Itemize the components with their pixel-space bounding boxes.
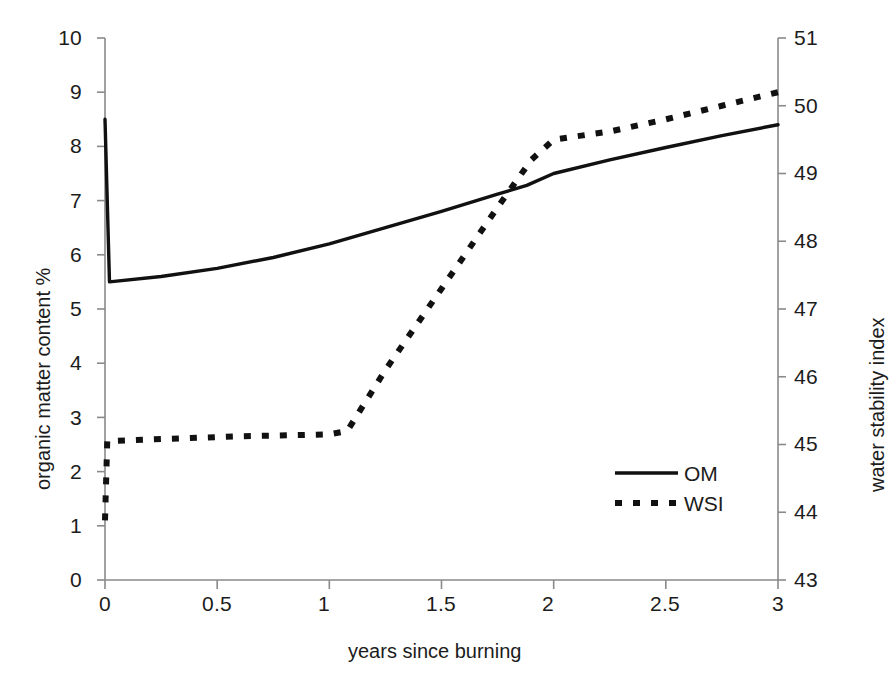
- right-axis-tick-label: 43: [794, 568, 840, 592]
- x-axis-tick-label: 0: [80, 592, 130, 616]
- legend-label-om: OM: [684, 462, 718, 486]
- x-axis-title: years since burning: [348, 640, 521, 663]
- right-axis-tick-label: 49: [794, 161, 840, 185]
- left-axis-tick-label: 6: [36, 243, 82, 267]
- right-axis-tick-label: 50: [794, 94, 840, 118]
- left-axis-tick-label: 8: [36, 134, 82, 158]
- right-axis-tick-label: 51: [794, 26, 840, 50]
- left-axis-tick-label: 0: [36, 568, 82, 592]
- x-axis-tick-label: 0.5: [187, 592, 247, 616]
- series-line-om: [105, 119, 778, 282]
- series-line-wsi: [105, 92, 778, 520]
- right-axis-title: water stability index: [866, 317, 889, 492]
- x-axis-tick-label: 1: [299, 592, 349, 616]
- left-axis-tick-label: 1: [36, 514, 82, 538]
- left-axis-tick-label: 7: [36, 189, 82, 213]
- left-axis-tick-label: 10: [36, 26, 82, 50]
- x-axis-tick-label: 1.5: [411, 592, 471, 616]
- x-axis-tick-label: 3: [753, 592, 803, 616]
- right-axis-tick-label: 45: [794, 432, 840, 456]
- right-axis-tick-label: 46: [794, 365, 840, 389]
- legend-label-wsi: WSI: [684, 492, 724, 516]
- right-axis-tick-label: 48: [794, 229, 840, 253]
- right-axis-tick-label: 44: [794, 500, 840, 524]
- right-axis-tick-label: 47: [794, 297, 840, 321]
- x-axis-tick-label: 2: [523, 592, 573, 616]
- left-axis-tick-label: 9: [36, 80, 82, 104]
- x-axis-tick-label: 2.5: [635, 592, 695, 616]
- left-axis-title: organic matter content %: [32, 268, 55, 490]
